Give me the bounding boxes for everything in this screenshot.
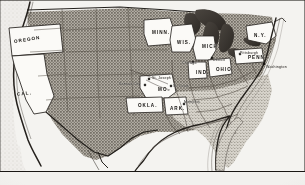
united-states-map-figure: OREGONCAL.MINN.WIS.MICH.N.Y.PENN.OHIOIND… [0, 0, 305, 185]
state-shape-pennsylvania [234, 48, 264, 64]
frame-rule-top [0, 0, 305, 1]
frame-rule-left [0, 0, 1, 171]
state-shape-oklahoma [126, 97, 163, 113]
state-shape-arkansas [164, 97, 188, 115]
state-shape-ohio [208, 58, 232, 77]
state-shape-minnesota [144, 18, 174, 46]
state-shape-wisconsin [170, 24, 196, 52]
state-shape-indiana [188, 62, 207, 79]
frame-rule-bottom [0, 171, 305, 172]
frame-rule-right [304, 0, 305, 171]
map-drawing [0, 0, 305, 185]
